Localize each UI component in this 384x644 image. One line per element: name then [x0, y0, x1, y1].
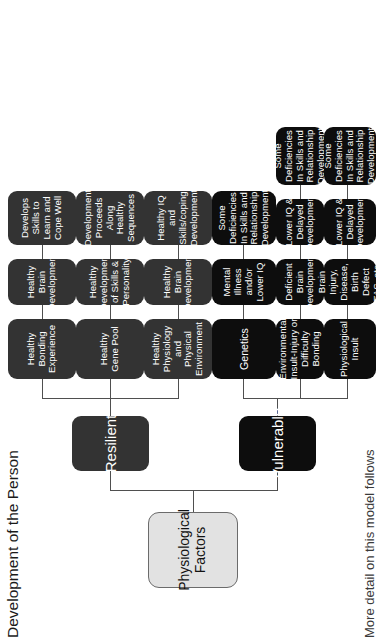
- node-root[interactable]: Physiological Factors: [148, 512, 238, 588]
- node-r4-c3[interactable]: Some Deficiencies In Skills and Relation…: [212, 191, 276, 245]
- connector-r4-c1-c2: [243, 305, 244, 319]
- node-r1-c1[interactable]: Healthy Bonding Experience: [8, 319, 76, 379]
- node-r5-c1[interactable]: Environmental Insult-Injury or Difficult…: [276, 319, 324, 379]
- diagram-stage: Development of the Person More detail on…: [0, 0, 384, 644]
- node-r1-c3[interactable]: Develops Skills to Learn and Cope Well: [8, 191, 76, 245]
- node-r6-c4-label: Some Deficiencies In Skills and Relation…: [323, 125, 378, 188]
- node-r1-c2-label: Healthy Brain Development: [26, 251, 59, 314]
- node-r4-c2[interactable]: Mental Illness and/or Lower IQ: [212, 259, 276, 305]
- node-r2-c3[interactable]: Development Proceeds Along Healthy Seque…: [76, 191, 144, 245]
- node-r6-c4[interactable]: Some Deficiencies In Skills and Relation…: [324, 127, 376, 185]
- connector-trunk: [110, 490, 277, 491]
- node-r6-c2[interactable]: Brain Injury, Disease, Birth Defect FAS,…: [324, 259, 376, 305]
- connector-resilient-row2: [110, 379, 111, 399]
- node-r6-c1-label: Physiological Insult: [339, 318, 361, 380]
- node-branch-resilient[interactable]: Resilient: [72, 416, 149, 471]
- node-r2-c2[interactable]: Healthy Development of Skills & Personal…: [76, 259, 144, 305]
- node-r2-c1-label: Healthy Gene Pool: [99, 319, 121, 379]
- node-r4-c1-label: Genetics: [238, 325, 250, 373]
- node-r6-c3[interactable]: Lower IQ & Delayed Development: [324, 199, 376, 245]
- connector-vulnerable-bus: [243, 398, 347, 399]
- node-r5-c2-label: Deficient Brain Development: [284, 251, 317, 314]
- connector-r6-c1-c2: [347, 305, 348, 319]
- node-r5-c1-label: Environmental Insult-Injury or Difficult…: [278, 315, 322, 382]
- node-r5-c4[interactable]: Some Deficiencies In Skills and Relation…: [276, 127, 324, 185]
- node-r6-c3-label: Lower IQ & Delayed Development: [334, 191, 367, 254]
- node-r3-c1-label: Healthy Physiology and Physical Environm…: [151, 319, 206, 379]
- node-r3-c3[interactable]: Healthy IQ and Skills/coping Development: [144, 191, 212, 245]
- node-branch-vulnerable-label: Vulnerable: [269, 405, 286, 482]
- node-r3-c2[interactable]: Healthy Brain Development: [144, 259, 212, 305]
- node-r4-c1[interactable]: Genetics: [212, 319, 276, 379]
- node-r2-c2-label: Healthy Development of Skills & Personal…: [88, 251, 132, 314]
- connector-vulnerable-row6: [347, 379, 348, 399]
- node-root-label: Physiological Factors: [177, 506, 209, 594]
- node-r3-c2-label: Healthy Brain Development: [162, 251, 195, 314]
- node-r3-c3-label: Healthy IQ and Skills/coping Development: [156, 187, 200, 250]
- node-r1-c2[interactable]: Healthy Brain Development: [8, 259, 76, 305]
- node-r5-c3-label: Lower IQ & Delayed Development: [284, 191, 317, 254]
- node-r6-c1[interactable]: Physiological Insult: [324, 319, 376, 379]
- node-r2-c1[interactable]: Healthy Gene Pool: [76, 319, 144, 379]
- node-r4-c3-label: Some Deficiencies In Skills and Relation…: [217, 187, 272, 250]
- footnote: More detail on this model follows: [362, 449, 377, 638]
- connector-vulnerable-row4: [243, 379, 244, 399]
- node-branch-vulnerable[interactable]: Vulnerable: [239, 416, 316, 471]
- page-title: Development of the Person: [4, 450, 22, 638]
- connector-resilient-row1: [42, 379, 43, 399]
- diagram-viewport: Development of the Person More detail on…: [0, 0, 384, 644]
- connector-resilient-row3: [178, 379, 179, 399]
- node-r2-c3-label: Development Proceeds Along Healthy Seque…: [83, 187, 138, 250]
- node-r1-c3-label: Develops Skills to Learn and Cope Well: [20, 191, 64, 245]
- node-r4-c2-label: Mental Illness and/or Lower IQ: [222, 259, 266, 305]
- node-r3-c1[interactable]: Healthy Physiology and Physical Environm…: [144, 319, 212, 379]
- node-r6-c2-label: Brain Injury, Disease, Birth Defect FAS,…: [317, 259, 383, 305]
- node-r5-c4-label: Some Deficiencies In Skills and Relation…: [273, 125, 328, 188]
- node-r5-c3[interactable]: Lower IQ & Delayed Development: [276, 199, 324, 245]
- node-r1-c1-label: Healthy Bonding Experience: [26, 319, 59, 379]
- node-branch-resilient-label: Resilient: [102, 412, 119, 476]
